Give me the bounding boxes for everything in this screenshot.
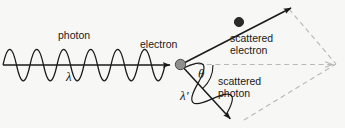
label-scattered-electron: scattered electron [230, 33, 273, 57]
label-electron: electron [140, 39, 177, 50]
label-scattered-photon-line2: photon [218, 88, 261, 100]
electron-dot [175, 59, 185, 69]
label-wavelength-lambda: λ [66, 70, 72, 84]
scattered-electron-dot [234, 17, 243, 26]
diagram-canvas [0, 0, 345, 128]
compton-scattering-figure: photon λ electron scattered electron θ λ… [0, 0, 345, 128]
label-scattered-photon-line1: scattered [218, 76, 261, 88]
label-scattered-electron-line1: scattered [230, 33, 273, 45]
label-photon: photon [58, 30, 90, 41]
label-scattered-electron-line2: electron [230, 45, 273, 57]
label-scattered-photon: scattered photon [218, 76, 261, 100]
label-wavelength-lambda-prime: λ' [180, 89, 188, 103]
label-scattering-angle-theta: θ [198, 67, 204, 81]
